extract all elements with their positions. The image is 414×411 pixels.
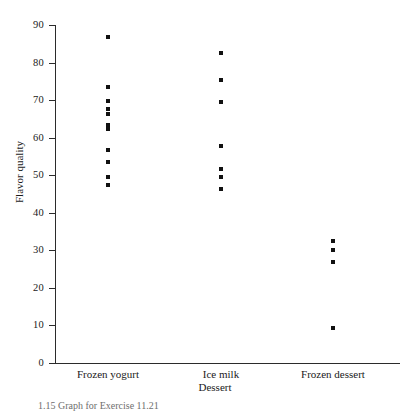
x-axis-title: Dessert — [0, 381, 414, 394]
data-point — [219, 187, 223, 191]
y-axis-tick-label: 80 — [16, 58, 44, 68]
data-point — [106, 175, 110, 179]
data-point — [331, 326, 335, 330]
y-axis-tick-label: 90 — [16, 20, 44, 30]
data-point — [219, 100, 223, 104]
data-point — [219, 144, 223, 148]
data-point — [331, 260, 335, 264]
data-point — [219, 78, 223, 82]
y-axis-tick-label: 20 — [16, 283, 44, 293]
y-axis-title: Flavor quality — [13, 117, 25, 227]
data-point — [106, 183, 110, 187]
data-point — [331, 239, 335, 243]
data-point — [219, 167, 223, 171]
y-axis-tick — [49, 250, 55, 251]
y-axis-tick — [49, 100, 55, 101]
data-point — [106, 160, 110, 164]
data-point — [106, 107, 110, 111]
x-axis-title-text: Dessert — [199, 381, 232, 393]
y-axis-tick — [49, 288, 55, 289]
y-axis-tick-label: 10 — [16, 320, 44, 330]
y-axis-tick-label: 30 — [16, 245, 44, 255]
y-axis-tick — [49, 63, 55, 64]
x-axis-category-label: Ice milk — [161, 368, 281, 381]
figure-caption: 1.15 Graph for Exercise 11.21 — [38, 400, 414, 411]
y-axis-tick — [49, 363, 55, 364]
data-point — [106, 99, 110, 103]
dotplot-chart: 0102030405060708090 Frozen yogurtIce mil… — [0, 0, 414, 411]
data-point — [106, 85, 110, 89]
x-axis-category-label: Frozen dessert — [273, 368, 393, 381]
data-point — [106, 148, 110, 152]
y-axis-tick — [49, 175, 55, 176]
x-axis-category-label: Frozen yogurt — [48, 368, 168, 381]
data-point — [219, 51, 223, 55]
x-axis-line — [55, 363, 400, 364]
y-axis-line — [55, 25, 56, 364]
y-axis-tick-label: 70 — [16, 95, 44, 105]
data-point — [106, 127, 110, 131]
data-point — [331, 248, 335, 252]
y-axis-tick — [49, 138, 55, 139]
y-axis-tick — [49, 325, 55, 326]
y-axis-tick — [49, 213, 55, 214]
data-point — [219, 175, 223, 179]
data-point — [106, 112, 110, 116]
data-point — [106, 35, 110, 39]
y-axis-tick-label: 0 — [16, 358, 44, 368]
data-point — [106, 123, 110, 127]
y-axis-tick — [49, 25, 55, 26]
